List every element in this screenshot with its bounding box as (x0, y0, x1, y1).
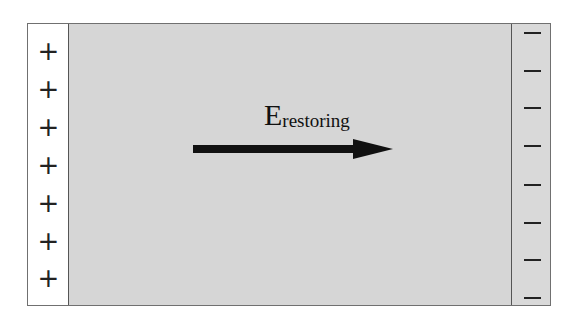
plus-sign: + (28, 268, 69, 288)
plus-sign: + (28, 41, 69, 61)
positive-plate: + + + + + + + (28, 24, 69, 305)
plus-sign: + (28, 193, 69, 213)
minus-sign (524, 184, 541, 186)
field-symbol: E (264, 98, 282, 131)
plus-sign: + (28, 117, 69, 137)
restoring-field-arrow-icon (193, 139, 395, 159)
minus-sign (524, 32, 541, 34)
minus-sign (524, 259, 541, 261)
minus-sign (524, 222, 541, 224)
field-subscript: restoring (282, 110, 350, 131)
plus-sign: + (28, 79, 69, 99)
minus-sign (524, 145, 541, 147)
minus-sign (524, 297, 541, 299)
plus-sign: + (28, 155, 69, 175)
diagram-frame: + + + + + + + (27, 23, 551, 306)
negative-plate (511, 24, 550, 305)
plus-sign: + (28, 231, 69, 251)
minus-sign (524, 107, 541, 109)
field-label: Erestoring (264, 98, 350, 132)
minus-sign (524, 70, 541, 72)
